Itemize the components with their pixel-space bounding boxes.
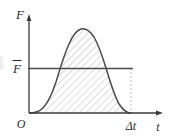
average-force-label: F <box>12 61 22 76</box>
x-axis-label: t <box>156 120 160 134</box>
x-axis-arrowhead-icon <box>156 111 163 116</box>
y-axis-arrowhead-icon <box>27 14 32 21</box>
y-axis-label: F <box>15 7 25 22</box>
delta-t-label: Δt <box>125 119 137 133</box>
impulse-force-time-figure: F F O Δt t <box>0 0 174 140</box>
origin-label: O <box>17 117 26 131</box>
force-time-chart-svg: F F O Δt t <box>0 0 174 140</box>
y-axis <box>27 14 32 113</box>
